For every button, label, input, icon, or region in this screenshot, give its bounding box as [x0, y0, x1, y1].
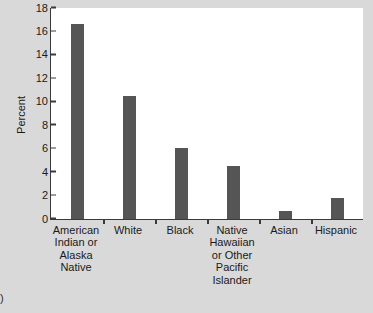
y-axis-title: Percent	[14, 60, 28, 170]
y-axis-tick-mark	[51, 101, 56, 103]
y-axis-tick-label: 10	[36, 96, 51, 107]
y-axis-tick-mark	[51, 147, 56, 149]
y-axis-tick-mark	[51, 77, 56, 79]
y-axis-tick-mark	[51, 194, 56, 196]
y-axis-tick-label: 4	[42, 166, 51, 177]
y-axis-tick-label: 0	[42, 213, 51, 224]
bar	[175, 148, 188, 219]
x-axis-category-label: Native Hawaiian or Other Pacific Islande…	[202, 224, 262, 286]
x-axis-category-label: Black	[150, 224, 210, 236]
y-axis-tick-mark	[51, 171, 56, 173]
y-axis-tick-mark	[51, 54, 56, 56]
plot-area: 024681012141618	[50, 8, 363, 220]
x-axis-category-label: Hispanic	[306, 224, 366, 236]
x-axis-category-label: American Indian or Alaska Native	[46, 224, 106, 274]
y-axis-tick-label: 16	[36, 25, 51, 36]
y-axis-title-text: Percent	[15, 96, 27, 134]
bar	[279, 211, 292, 219]
x-axis-category-labels: American Indian or Alaska NativeWhiteBla…	[50, 224, 362, 310]
y-axis-tick-label: 8	[42, 119, 51, 130]
caption-fragment: )	[0, 292, 4, 304]
bar	[71, 24, 84, 219]
y-axis-tick-label: 6	[42, 143, 51, 154]
y-axis-tick-mark	[51, 30, 56, 32]
x-axis-category-label: Asian	[254, 224, 314, 236]
y-axis-tick-mark	[51, 124, 56, 126]
bar	[331, 198, 344, 219]
bar	[123, 96, 136, 219]
y-axis-tick-mark	[51, 218, 56, 220]
y-axis-tick-label: 18	[36, 2, 51, 13]
y-axis-tick-label: 14	[36, 49, 51, 60]
bar	[227, 166, 240, 219]
y-axis-tick-mark	[51, 7, 56, 9]
figure-container: Percent 024681012141618 American Indian …	[0, 0, 373, 313]
y-axis-tick-label: 2	[42, 190, 51, 201]
x-axis-category-label: White	[98, 224, 158, 236]
y-axis-tick-label: 12	[36, 72, 51, 83]
